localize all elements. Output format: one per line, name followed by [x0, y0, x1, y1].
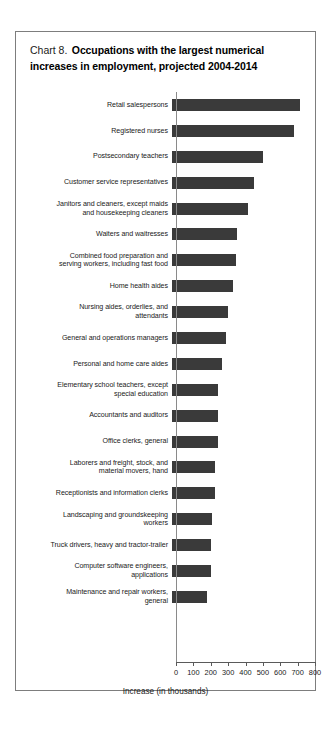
x-axis-tick-label: 100	[187, 668, 199, 677]
bar-row: Home health aides	[16, 273, 315, 299]
bar-category-label: Accountants and auditors	[16, 411, 172, 420]
bar-track	[172, 558, 315, 584]
x-axis-tick	[263, 662, 264, 666]
bar-track	[172, 429, 315, 455]
x-axis-tick-label: 600	[274, 668, 286, 677]
bar	[172, 177, 254, 189]
bar-track	[172, 351, 315, 377]
bar	[172, 410, 218, 422]
chart-title: Chart 8. Occupations with the largest nu…	[30, 42, 305, 73]
bar	[172, 306, 228, 318]
bar-row: Accountants and auditors	[16, 403, 315, 429]
x-axis-tick-label: 300	[222, 668, 234, 677]
bar-row: Waiters and waitresses	[16, 221, 315, 247]
chart-frame: Chart 8. Occupations with the largest nu…	[15, 31, 316, 691]
bar-category-label: Customer service representatives	[16, 178, 172, 187]
bar-row: Personal and home care aides	[16, 351, 315, 377]
bar-row: Receptionists and information clerks	[16, 480, 315, 506]
bar-track	[172, 325, 315, 351]
x-axis-tick-label: 700	[291, 668, 303, 677]
x-axis-title: Increase (in thousands)	[16, 687, 315, 696]
bar-category-label: Home health aides	[16, 282, 172, 291]
x-axis-tick	[315, 662, 316, 666]
bar-row: Retail salespersons	[16, 92, 315, 118]
x-axis-tick-label: 200	[205, 668, 217, 677]
bar	[172, 358, 222, 370]
x-axis-tick-label: 0	[174, 668, 178, 677]
x-axis-tick	[298, 662, 299, 666]
bar-track	[172, 144, 315, 170]
plot-area: Retail salespersonsRegistered nursesPost…	[16, 92, 315, 662]
bar-row: Registered nurses	[16, 118, 315, 144]
bar	[172, 513, 212, 525]
x-axis-tick	[193, 662, 194, 666]
bar-track	[172, 584, 315, 610]
bar	[172, 461, 215, 473]
bar-track	[172, 480, 315, 506]
x-axis-tick-labels: 0100200300400500600700800	[176, 668, 321, 680]
bar-row: Customer service representatives	[16, 170, 315, 196]
bar-track	[172, 532, 315, 558]
bar-category-label: Laborers and freight, stock, and materia…	[16, 459, 172, 476]
x-axis-tick	[280, 662, 281, 666]
bar-track	[172, 92, 315, 118]
chart-title-prefix: Chart 8.	[30, 44, 67, 56]
x-axis-tick-label: 500	[257, 668, 269, 677]
bar-track	[172, 196, 315, 222]
bar-row: Truck drivers, heavy and tractor-trailer	[16, 532, 315, 558]
bar-category-label: Nursing aides, orderlies, and attendants	[16, 303, 172, 320]
bar	[172, 99, 300, 111]
bar-category-label: Waiters and waitresses	[16, 230, 172, 239]
x-axis-tick	[228, 662, 229, 666]
bar-category-label: Personal and home care aides	[16, 360, 172, 369]
bar	[172, 539, 211, 551]
bar-category-label: Maintenance and repair workers, general	[16, 588, 172, 605]
bar-category-label: Truck drivers, heavy and tractor-trailer	[16, 541, 172, 550]
bar-track	[172, 118, 315, 144]
bar	[172, 203, 248, 215]
bar	[172, 228, 237, 240]
y-axis-line	[176, 92, 177, 662]
bar-track	[172, 247, 315, 273]
bar-category-label: Receptionists and information clerks	[16, 489, 172, 498]
bar-track	[172, 506, 315, 532]
x-axis-tick-label: 800	[309, 668, 321, 677]
bar-category-label: Janitors and cleaners, except maids and …	[16, 200, 172, 217]
bar-track	[172, 273, 315, 299]
bar	[172, 151, 263, 163]
bar-row: Nursing aides, orderlies, and attendants	[16, 299, 315, 325]
bar	[172, 125, 294, 137]
bar-category-label: General and operations managers	[16, 334, 172, 343]
bar-track	[172, 454, 315, 480]
bar-category-label: Elementary school teachers, except speci…	[16, 381, 172, 398]
bar-category-label: Computer software engineers, application…	[16, 562, 172, 579]
bar-row: Landscaping and groundskeeping workers	[16, 506, 315, 532]
bar	[172, 254, 236, 266]
bar-category-label: Landscaping and groundskeeping workers	[16, 511, 172, 528]
bar-category-label: Registered nurses	[16, 127, 172, 136]
bar-track	[172, 221, 315, 247]
bar-track	[172, 170, 315, 196]
x-axis-tick	[176, 662, 177, 666]
bar-row: Postsecondary teachers	[16, 144, 315, 170]
bar-category-label: Office clerks, general	[16, 437, 172, 446]
x-axis-tick	[246, 662, 247, 666]
bar	[172, 384, 218, 396]
x-axis-tick	[211, 662, 212, 666]
bar-category-label: Postsecondary teachers	[16, 152, 172, 161]
bar-row: Elementary school teachers, except speci…	[16, 377, 315, 403]
bar-row: Combined food preparation and serving wo…	[16, 247, 315, 273]
bar-row: Office clerks, general	[16, 429, 315, 455]
bar	[172, 591, 207, 603]
x-axis-tick-label: 400	[239, 668, 251, 677]
bar	[172, 487, 215, 499]
bar-row: Laborers and freight, stock, and materia…	[16, 454, 315, 480]
bar-track	[172, 377, 315, 403]
bar-track	[172, 299, 315, 325]
bar	[172, 565, 211, 577]
bar-row: Maintenance and repair workers, general	[16, 584, 315, 610]
bar	[172, 436, 218, 448]
bar	[172, 332, 226, 344]
bar-row: General and operations managers	[16, 325, 315, 351]
bar-row: Computer software engineers, application…	[16, 558, 315, 584]
